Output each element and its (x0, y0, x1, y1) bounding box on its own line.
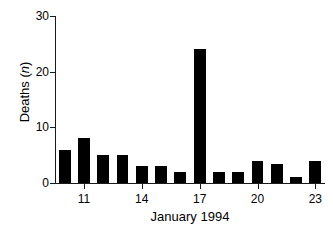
bar (97, 155, 109, 183)
bar (136, 166, 148, 183)
bar (155, 166, 167, 183)
bar (59, 150, 71, 183)
x-axis-tick-label: 17 (185, 192, 215, 206)
bar (213, 172, 225, 183)
bar (194, 49, 206, 183)
x-axis-tick (84, 184, 85, 189)
y-axis-tick-label: 20 (21, 66, 49, 78)
bar (309, 161, 321, 183)
x-axis-tick (315, 184, 316, 189)
bar (271, 164, 283, 183)
x-axis-tick-label: 11 (69, 192, 99, 206)
y-axis-title-prefix: Deaths ( (17, 73, 32, 122)
chart-figure: Deaths (n) 0102030 1114172023 January 19… (0, 0, 333, 238)
x-axis-title: January 1994 (55, 209, 325, 225)
bar (78, 138, 90, 183)
bar (252, 161, 264, 183)
y-axis-line (55, 16, 56, 183)
y-axis-tick-label: 0 (21, 177, 49, 189)
x-axis-tick-label: 14 (127, 192, 157, 206)
y-axis-tick (50, 183, 55, 184)
x-axis-tick (200, 184, 201, 189)
y-axis-tick-label: 30 (21, 10, 49, 22)
x-axis-line (55, 183, 325, 184)
bar (117, 155, 129, 183)
x-axis-tick-label: 23 (300, 192, 330, 206)
bar (232, 172, 244, 183)
bar (174, 172, 186, 183)
y-axis-tick (50, 127, 55, 128)
y-axis-tick-label: 10 (21, 121, 49, 133)
x-axis-tick (258, 184, 259, 189)
x-axis-tick-label: 20 (243, 192, 273, 206)
y-axis-title: Deaths (n) (14, 2, 36, 182)
y-axis-tick (50, 72, 55, 73)
x-axis-tick (142, 184, 143, 189)
plot-area: 0102030 1114172023 (55, 16, 325, 183)
y-axis-tick (50, 16, 55, 17)
bar (290, 177, 302, 183)
